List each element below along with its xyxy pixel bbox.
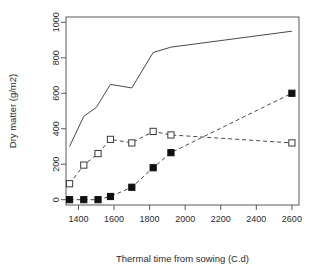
x-tick-label: 2200 [211,214,231,224]
data-point-open-square-series [81,162,87,168]
chart-plot-area: 1400160018002000220024002600020040060080… [0,0,313,279]
data-point-filled-square-series [107,193,113,199]
data-point-filled-square-series [66,197,72,203]
series-path-open-square-series [70,131,292,183]
data-point-open-square-series [66,181,72,187]
data-point-open-square-series [168,132,174,138]
x-tick-label: 2600 [282,214,302,224]
data-point-open-square-series [150,128,156,134]
x-tick-label: 1400 [68,214,88,224]
y-axis-title: Dry matter (g/m2) [7,74,18,148]
y-tick-label: 600 [51,86,61,101]
x-tick-label: 2000 [175,214,195,224]
y-tick-label: 400 [51,121,61,136]
data-point-open-square-series [289,140,295,146]
x-axis-title: Thermal time from sowing (C.d) [116,253,249,264]
x-tick-label: 1800 [140,214,160,224]
x-tick-label: 2400 [246,214,266,224]
x-tick-label: 1600 [104,214,124,224]
y-tick-label: 200 [51,157,61,172]
series-path-filled-square-series [70,93,292,199]
data-point-filled-square-series [289,90,295,96]
data-point-open-square-series [107,136,113,142]
data-point-filled-square-series [95,197,101,203]
series-path-total-dry-matter [70,31,292,146]
data-point-filled-square-series [129,184,135,190]
y-tick-label: 0 [51,197,61,202]
y-tick-label: 800 [51,50,61,65]
y-tick-label: 1000 [51,12,61,32]
data-point-open-square-series [129,140,135,146]
data-point-filled-square-series [150,165,156,171]
data-point-filled-square-series [81,197,87,203]
data-point-filled-square-series [168,150,174,156]
chart-figure: 1400160018002000220024002600020040060080… [0,0,313,279]
data-point-open-square-series [95,150,101,156]
